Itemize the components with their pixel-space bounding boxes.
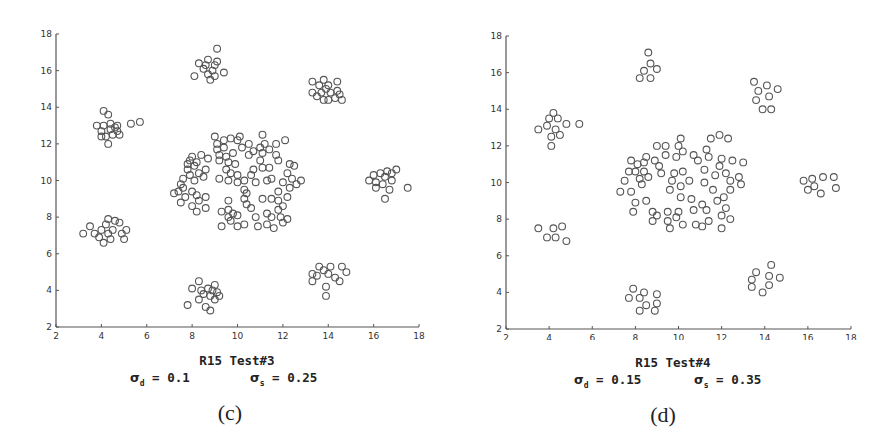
data-point	[723, 205, 730, 212]
data-point	[379, 181, 386, 188]
data-point	[382, 195, 389, 202]
y-tick-label: 8	[496, 214, 502, 224]
data-point	[327, 263, 334, 270]
data-point	[621, 177, 628, 184]
data-point	[667, 186, 674, 193]
data-point	[643, 302, 650, 309]
data-point	[325, 97, 332, 104]
data-point	[667, 225, 674, 232]
y-tick-label: 6	[496, 251, 502, 261]
data-point	[651, 307, 658, 314]
y-tick-label: 4	[496, 287, 502, 297]
data-point	[723, 170, 730, 177]
data-point	[632, 199, 639, 206]
data-point	[647, 60, 654, 67]
data-point	[189, 285, 196, 292]
data-point	[259, 164, 266, 171]
data-point	[291, 162, 298, 169]
x-tick-label: 16	[368, 331, 380, 340]
data-point	[677, 194, 684, 201]
sigma-s-param-d: σs = 0.35	[694, 372, 761, 387]
data-point	[332, 95, 339, 102]
data-point	[275, 206, 282, 213]
data-point	[198, 152, 205, 159]
data-point	[293, 181, 300, 188]
panel-d: 2468101214161824681012141618 R15 Test#4 …	[446, 0, 893, 444]
y-tick-label: 14	[41, 102, 53, 112]
data-point	[112, 217, 119, 224]
scatter-plot-c: 2468101214161824681012141618	[0, 0, 446, 340]
x-tick-label: 18	[845, 333, 857, 340]
data-point	[699, 223, 706, 230]
data-point	[255, 223, 262, 230]
data-point	[316, 263, 323, 270]
x-tick-label: 14	[759, 333, 771, 340]
data-point	[230, 210, 237, 217]
data-point	[714, 197, 721, 204]
data-point	[656, 163, 663, 170]
data-point	[768, 262, 775, 269]
data-point	[662, 152, 669, 159]
data-point	[776, 274, 783, 281]
x-tick-label: 2	[53, 331, 59, 340]
data-point	[309, 78, 316, 85]
data-point	[662, 143, 669, 150]
data-point	[264, 210, 271, 217]
data-point	[234, 179, 241, 186]
data-point	[323, 283, 330, 290]
data-point	[87, 223, 94, 230]
data-point	[105, 141, 112, 148]
data-point	[701, 166, 708, 173]
data-point	[671, 170, 678, 177]
data-point	[632, 168, 639, 175]
data-point	[718, 212, 725, 219]
data-point	[768, 106, 775, 113]
data-point	[544, 234, 551, 241]
y-tick-label: 10	[491, 178, 503, 188]
data-point	[563, 121, 570, 128]
data-points	[80, 45, 411, 314]
data-point	[550, 225, 557, 232]
data-point	[751, 78, 758, 85]
y-tick-label: 4	[46, 285, 52, 295]
data-point	[386, 186, 393, 193]
data-point	[636, 307, 643, 314]
data-point	[701, 179, 708, 186]
data-point	[820, 174, 827, 181]
data-point	[658, 170, 665, 177]
data-point	[679, 148, 686, 155]
data-point	[679, 168, 686, 175]
data-point	[234, 172, 241, 179]
y-tick-label: 2	[46, 322, 52, 332]
data-point	[100, 239, 107, 246]
data-point	[318, 89, 325, 96]
plot-params-d: σd = 0.15 σs = 0.35	[574, 372, 794, 392]
data-point	[257, 157, 264, 164]
data-point	[716, 163, 723, 170]
data-point	[692, 221, 699, 228]
data-point	[282, 137, 289, 144]
data-point	[252, 179, 259, 186]
data-point	[196, 278, 203, 285]
data-point	[748, 284, 755, 291]
data-point	[284, 194, 291, 201]
data-point	[252, 214, 259, 221]
data-point	[377, 170, 384, 177]
data-point	[544, 122, 551, 129]
data-point	[207, 307, 214, 314]
data-point	[673, 154, 680, 161]
data-point	[654, 291, 661, 298]
data-point	[221, 69, 228, 76]
y-tick-label: 12	[41, 139, 52, 149]
data-point	[239, 144, 246, 151]
data-point	[202, 205, 209, 212]
data-point	[191, 177, 198, 184]
data-point	[211, 133, 218, 140]
data-point	[718, 155, 725, 162]
data-point	[766, 282, 773, 289]
data-point	[654, 212, 661, 219]
y-tick-label: 12	[491, 141, 502, 151]
data-point	[727, 216, 734, 223]
data-point	[554, 115, 561, 122]
data-point	[805, 186, 812, 193]
